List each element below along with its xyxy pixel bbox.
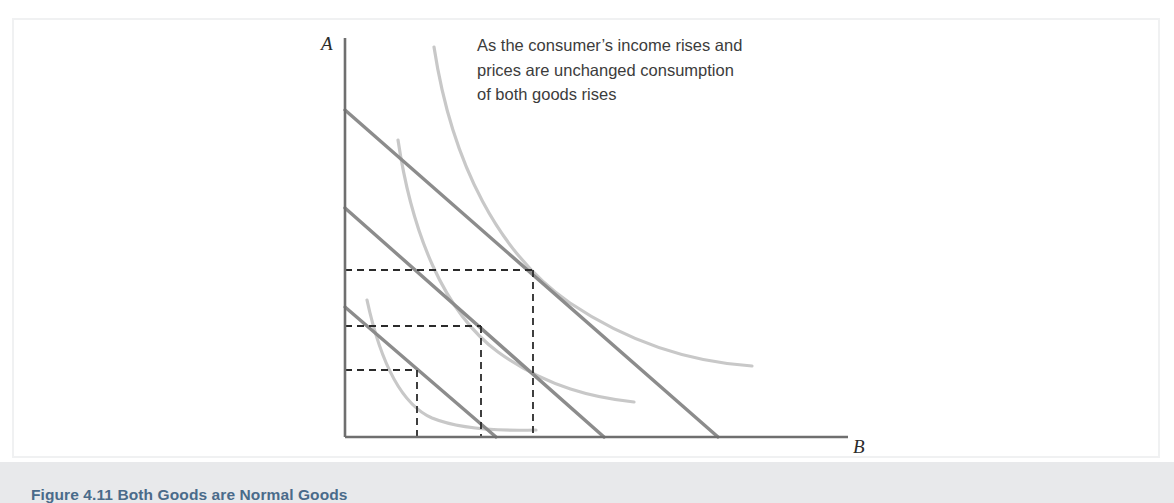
x-axis-label: B [853,436,865,458]
figure-caption: Figure 4.11 Both Goods are Normal Goods [31,486,348,503]
budget-line-2 [345,208,604,437]
y-axis-label: A [321,33,333,55]
figure-container: A B As the consumer’s income rises and p… [0,0,1174,503]
annotation-line-1: As the consumer’s income rises and [477,33,807,58]
annotation-line-3: of both goods rises [477,82,807,107]
annotation-note: As the consumer’s income rises and price… [477,33,807,107]
caption-band: Figure 4.11 Both Goods are Normal Goods [0,462,1174,503]
dashed-guides-group [345,270,533,437]
annotation-line-2: prices are unchanged consumption [477,58,807,83]
indifference-curve-1 [367,300,536,430]
indifference-curve-2 [398,140,634,402]
